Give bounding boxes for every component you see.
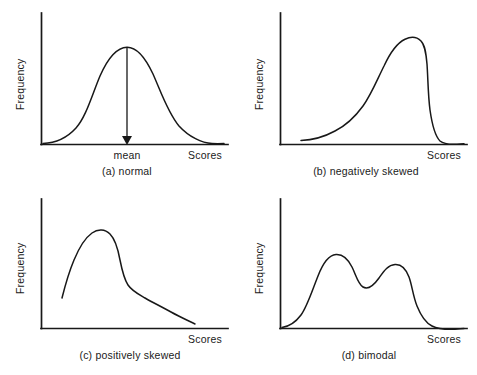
axes-normal: [41, 13, 228, 145]
panel-caption: (b) negatively skewed: [313, 165, 419, 177]
distribution-shapes-figure: Frequency mean Scores (a) normal Frequen…: [0, 0, 477, 375]
mean-pointer-arrow: [122, 48, 132, 145]
axes-bimodal: [280, 199, 467, 329]
axes-positively-skewed: [41, 199, 228, 329]
negatively-skewed-distribution-curve: [301, 37, 464, 144]
bimodal-distribution-curve: [282, 254, 464, 329]
x-axis-label: Scores: [427, 149, 461, 161]
panel-negatively-skewed: Frequency Scores (b) negatively skewed: [239, 0, 477, 187]
y-axis-label: Frequency: [253, 242, 265, 294]
x-axis-label: Scores: [188, 149, 222, 161]
x-axis-label: Scores: [427, 333, 461, 345]
normal-distribution-curve: [43, 47, 224, 144]
y-axis-label: Frequency: [253, 58, 265, 110]
positively-skewed-distribution-curve: [62, 230, 195, 324]
panel-caption: (c) positively skewed: [79, 349, 180, 361]
panel-normal: Frequency mean Scores (a) normal: [0, 0, 238, 187]
x-axis-label: Scores: [188, 333, 222, 345]
y-axis-label: Frequency: [14, 242, 26, 294]
y-axis-label: Frequency: [14, 58, 26, 110]
panel-caption: (a) normal: [102, 165, 152, 177]
panel-positively-skewed: Frequency Scores (c) positively skewed: [0, 188, 238, 375]
panel-caption: (d) bimodal: [342, 349, 397, 361]
mean-label: mean: [113, 149, 140, 161]
panel-bimodal: Frequency Scores (d) bimodal: [239, 188, 477, 375]
axes-negatively-skewed: [280, 13, 467, 145]
